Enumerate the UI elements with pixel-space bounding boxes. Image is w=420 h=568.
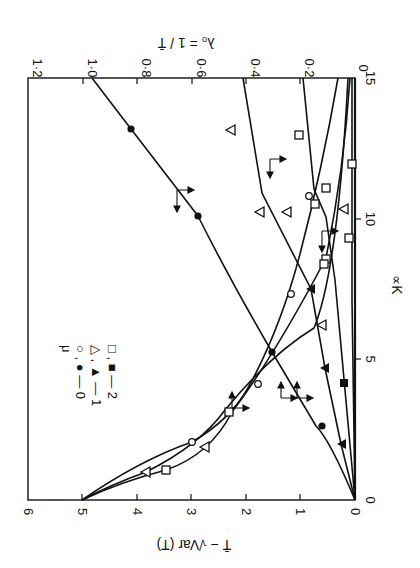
markers-filled-triangles [306,284,346,449]
legend-title: μ [59,345,74,353]
bottom-axis-ticks [82,494,300,500]
legend-entry-mu2: □ , ■ — 2 [105,345,120,399]
curve-mu1-lambda [243,78,355,500]
tick-label: 1 [293,508,308,515]
legend-entry-mu1: △ , ▲ — 1 [89,345,104,406]
tick-label: 0·8 [139,59,154,78]
tick-label: 15 [363,71,378,85]
tick-label: 0·2 [302,59,317,78]
tick-label: 5 [75,508,90,515]
x-axis-label: ∝K [389,275,405,295]
right-tick-labels: 0 5 10 15 [363,71,378,504]
right-axis-label: λ₀ = 1 / T̄ [157,35,214,51]
markers-open-squares [162,131,356,474]
tick-label: 1·2 [30,59,45,78]
bottom-tick-labels: 6 5 4 3 2 1 0 [21,508,363,515]
curve-mu0-tvar [82,78,338,500]
tick-label: 0·6 [194,59,209,78]
legend: μ ○ , ● — 0 △ , ▲ — 1 □ , ■ — 2 [59,345,120,406]
plot-frame [28,78,355,500]
tick-label: 6 [21,508,36,515]
tick-label: 0·4 [248,59,263,78]
tick-label: 0 [348,508,363,515]
tick-label: 3 [184,508,199,515]
tick-label: 5 [363,355,378,362]
markers-open-triangles [141,125,348,477]
markers-open-circles [189,193,313,446]
tick-label: 0 [363,496,378,503]
legend-entry-mu0: ○ , ● — 0 [73,345,88,399]
chart: 1·2 1·0 0·8 0·6 0·4 0·2 0 λ₀ = 1 / T̄ 6 … [0,0,420,568]
tick-label: 10 [363,212,378,226]
left-axis-label: T̄ − √Var (T) [157,537,232,553]
tick-label: 4 [130,508,145,515]
top-tick-labels: 1·2 1·0 0·8 0·6 0·4 0·2 0 [30,59,371,78]
tick-label: 2 [239,508,254,515]
curve-mu0-lambda [92,78,355,500]
top-axis-ticks [83,78,300,84]
markers-filled-squares [340,379,348,387]
tick-label: 1·0 [85,59,100,78]
